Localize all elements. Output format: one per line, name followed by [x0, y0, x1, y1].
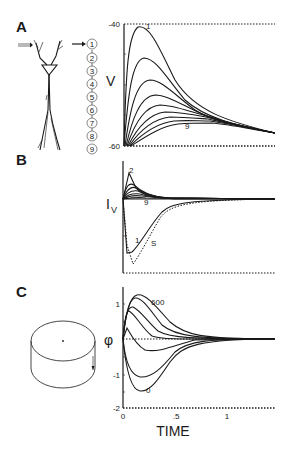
- x-tick-1: 1: [225, 412, 230, 421]
- y-tick-minus60: -60: [108, 142, 120, 151]
- curve-label-0: 0: [146, 386, 151, 395]
- compartment-4: 4: [87, 79, 97, 89]
- panel-c-chart: φ 1 -1 -2 0 .5 1 TIME 600 0: [104, 287, 275, 439]
- panel-label-a: A: [16, 18, 27, 35]
- svg-text:2: 2: [90, 54, 95, 63]
- panel-label-b: B: [16, 151, 27, 168]
- curve-label-s: S: [151, 239, 156, 248]
- y-tick-minus2: -2: [113, 404, 121, 413]
- curve-label-9: 9: [185, 122, 190, 131]
- neuron-drawing: [18, 40, 86, 150]
- compartment-7: 7: [87, 118, 97, 128]
- curve-label-1: 1: [146, 22, 151, 31]
- x-axis-label-time: TIME: [156, 423, 189, 439]
- svg-text:5: 5: [90, 93, 95, 102]
- compartment-3: 3: [87, 66, 97, 76]
- svg-text:9: 9: [90, 145, 95, 154]
- curve-label-9-b: 9: [144, 198, 149, 207]
- x-tick-0: 0: [121, 412, 126, 421]
- panel-a-chart: -40 -60 V 1 9: [106, 20, 275, 151]
- compartment-9: 9: [87, 144, 97, 154]
- compartment-5: 5: [87, 92, 97, 102]
- curve-label-1-b: 1: [135, 236, 140, 245]
- y-tick-minus1: -1: [113, 371, 121, 380]
- svg-text:8: 8: [90, 132, 95, 141]
- panel-label-c: C: [16, 283, 27, 300]
- y-axis-label-i: I: [106, 196, 110, 212]
- x-tick-0-5: .5: [173, 412, 180, 421]
- compartment-2: 2: [87, 53, 97, 63]
- y-axis-label-phi: φ: [104, 332, 113, 348]
- curve-label-2: 2: [129, 166, 134, 175]
- compartment-chain: 1 2 3 4 5 6 7 8 9: [87, 39, 97, 154]
- y-axis-label-v: V: [106, 73, 116, 89]
- y-axis-label-sub-v: V: [111, 205, 117, 215]
- cylinder-drawing: [31, 321, 95, 388]
- svg-text:4: 4: [90, 80, 95, 89]
- compartment-8: 8: [87, 131, 97, 141]
- svg-text:7: 7: [90, 119, 95, 128]
- svg-text:3: 3: [90, 67, 95, 76]
- svg-text:1: 1: [90, 40, 95, 49]
- y-tick-1: 1: [116, 300, 121, 309]
- panel-b-chart: I V 2 9 1 S: [106, 161, 275, 273]
- compartment-6: 6: [87, 105, 97, 115]
- curve-label-600: 600: [151, 298, 165, 307]
- figure-canvas: A B C 1 2 3 4 5 6 7 8 9 -40: [0, 0, 291, 456]
- compartment-1: 1: [87, 39, 97, 49]
- y-tick-minus40: -40: [108, 20, 120, 29]
- svg-text:6: 6: [90, 106, 95, 115]
